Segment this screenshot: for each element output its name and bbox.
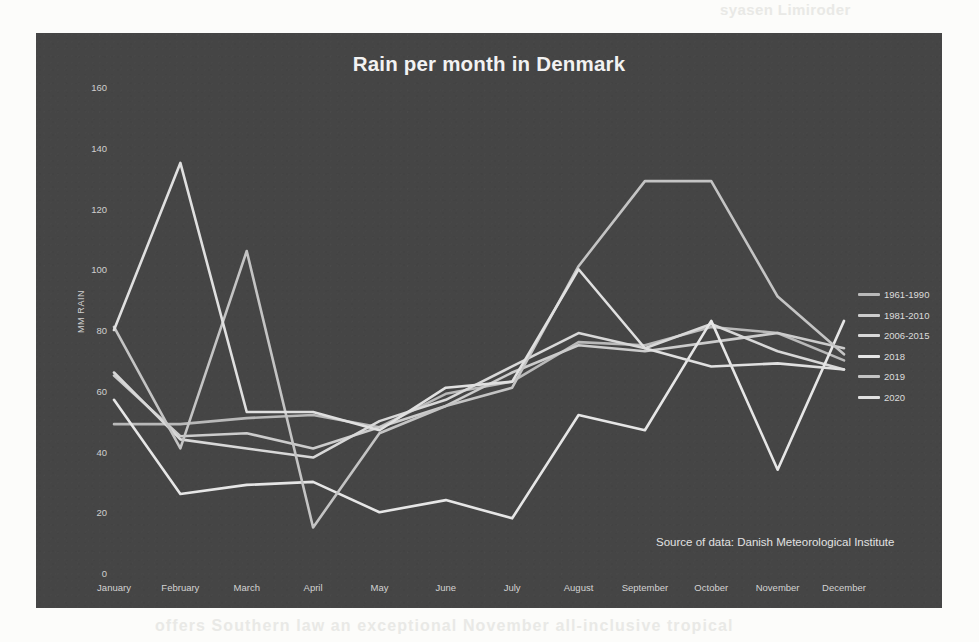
legend-item[interactable]: 2006-2015	[858, 330, 929, 341]
legend-item[interactable]: 2018	[858, 351, 929, 362]
series-line	[114, 324, 844, 458]
x-axis-tick: April	[304, 582, 323, 593]
legend-label: 2019	[884, 371, 905, 382]
series-line	[114, 181, 844, 527]
page-background: syasen Limiroder Rain per month in Denma…	[0, 0, 979, 642]
x-axis-tick: September	[622, 582, 668, 593]
plot-lines	[114, 87, 844, 573]
series-line	[114, 327, 844, 427]
legend-item[interactable]: 2019	[858, 371, 929, 382]
x-axis-tick: January	[97, 582, 131, 593]
y-axis-tick: 0	[102, 568, 107, 579]
legend-item[interactable]: 2020	[858, 392, 929, 403]
x-axis-tick: June	[436, 582, 457, 593]
showthrough-text-bottom: offers Southern law an exceptional Novem…	[155, 617, 955, 635]
legend-color-swatch	[858, 293, 880, 296]
chart-legend: 1961-19901981-20102006-2015201820192020	[858, 289, 929, 403]
x-axis-tick: February	[161, 582, 199, 593]
x-axis-tick: July	[504, 582, 521, 593]
legend-color-swatch	[858, 314, 880, 317]
legend-label: 1961-1990	[884, 289, 929, 300]
legend-label: 2006-2015	[884, 330, 929, 341]
plot-area: 020406080100120140160JanuaryFebruaryMarc…	[114, 87, 844, 573]
series-line	[114, 333, 844, 448]
y-axis-tick: 160	[91, 82, 107, 93]
y-axis-tick: 120	[91, 203, 107, 214]
legend-label: 1981-2010	[884, 310, 929, 321]
y-axis-tick: 40	[96, 446, 107, 457]
x-axis-tick: May	[370, 582, 388, 593]
x-axis-tick: August	[564, 582, 594, 593]
legend-color-swatch	[858, 334, 880, 337]
legend-item[interactable]: 1961-1990	[858, 289, 929, 300]
y-axis-title: MM RAIN	[76, 290, 86, 333]
x-axis-tick: December	[822, 582, 866, 593]
y-axis-tick: 60	[96, 385, 107, 396]
chart-title: Rain per month in Denmark	[36, 52, 942, 76]
legend-label: 2020	[884, 392, 905, 403]
y-axis-tick: 20	[96, 507, 107, 518]
legend-color-swatch	[858, 396, 880, 399]
legend-label: 2018	[884, 351, 905, 362]
y-axis-tick: 80	[96, 325, 107, 336]
x-axis-tick: November	[756, 582, 800, 593]
showthrough-text-top: syasen Limiroder	[720, 1, 851, 18]
chart-panel: Rain per month in Denmark MM RAIN 020406…	[36, 33, 942, 608]
source-annotation: Source of data: Danish Meteorological In…	[656, 536, 894, 548]
legend-item[interactable]: 1981-2010	[858, 310, 929, 321]
y-axis-tick: 140	[91, 142, 107, 153]
x-axis-tick: October	[694, 582, 728, 593]
x-axis-tick: March	[234, 582, 260, 593]
legend-color-swatch	[858, 375, 880, 378]
legend-color-swatch	[858, 355, 880, 358]
y-axis-tick: 100	[91, 264, 107, 275]
